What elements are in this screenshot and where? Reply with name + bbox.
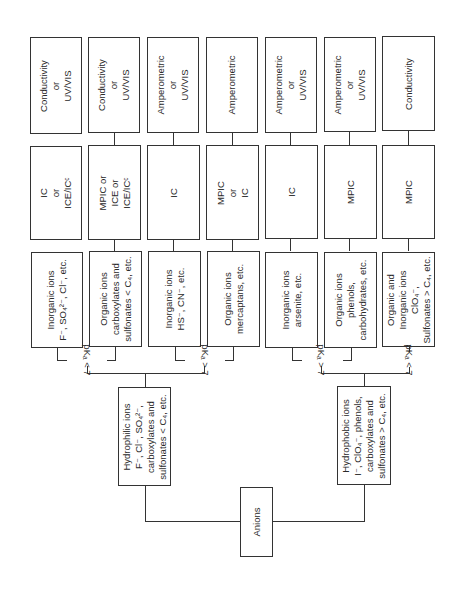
detector-text-or: or <box>50 81 61 89</box>
bracket <box>115 347 116 361</box>
ion-text-detail: carboxylates and <box>110 263 121 335</box>
bracket <box>321 373 410 374</box>
group-title: Hydrophobic ions <box>340 399 351 472</box>
ion-box-4: Organic ionsmercaptans, etc. <box>207 251 260 347</box>
detector-text: Conductivity <box>403 58 414 110</box>
ion-text-detail: F⁻, SO₄²⁻, Cl⁻, etc. <box>57 259 68 341</box>
connector <box>145 521 241 522</box>
method-text: MPIC <box>345 180 356 204</box>
ion-text-detail: phenols, <box>345 282 356 318</box>
ion-text-detail-2: sulfonates < C₄, etc. <box>122 256 133 341</box>
ion-text-detail-2: ClO₄⁻, <box>409 286 420 314</box>
detector-text-or: or <box>344 80 355 88</box>
group-line: carboxylates and <box>145 401 156 473</box>
ion-box-2: Organic ionscarboxylates andsulfonates <… <box>89 251 142 347</box>
method-text: MPIC or <box>97 175 108 210</box>
connector <box>173 133 174 145</box>
connector <box>114 240 115 251</box>
ion-text-detail-3: Sulfonates > C₄, etc. <box>421 256 432 343</box>
method-text-or: or <box>227 188 238 196</box>
detector-text: Amperometric <box>226 55 237 114</box>
ion-text: Inorganic ions <box>163 269 174 328</box>
bracket <box>351 347 352 361</box>
connector <box>408 239 409 251</box>
detector-text-or: or <box>108 81 119 89</box>
method-text-or: or <box>50 189 61 197</box>
ion-text-detail: mercaptans, etc. <box>234 264 245 334</box>
anions-root-box: Anions <box>240 487 273 557</box>
bracket <box>292 360 302 361</box>
connector <box>364 373 365 387</box>
method-box-2: MPIC orICE orICE/ICᶜ <box>88 145 141 240</box>
method-text-or: ICE or <box>109 179 120 206</box>
ion-box-7: Organic andInorganic ionsClO₄⁻,Sulfonate… <box>382 252 435 347</box>
connector <box>232 240 233 251</box>
connector <box>145 486 146 522</box>
method-text: IC <box>38 188 49 198</box>
ion-text: Organic ions <box>333 273 344 326</box>
detector-box-1: ConductivityorUV/VIS <box>30 37 82 134</box>
ion-text-detail: arsenite, etc. <box>292 273 303 327</box>
detector-text-alt: UV/VIS <box>179 69 190 100</box>
bracket <box>107 360 116 361</box>
group-title: Hydrophilic ions <box>121 403 132 470</box>
bracket <box>233 347 234 361</box>
detector-text: Conductivity <box>96 59 107 111</box>
connector <box>349 239 350 251</box>
ion-box-1: Inorganic ionsF⁻, SO₄²⁻, Cl⁻, etc. <box>31 252 83 348</box>
detector-box-4: Amperometric <box>206 37 258 133</box>
hydrophilic-box: Hydrophilic ionsF⁻, Cl⁻, SO₄²⁻,carboxyla… <box>118 387 171 486</box>
ion-text: Organic ions <box>98 272 109 325</box>
detector-text-alt: UV/VIS <box>356 69 367 100</box>
method-box-3: IC <box>147 145 200 240</box>
detector-text-or: or <box>285 81 296 89</box>
ion-text: Organic ions <box>222 272 233 325</box>
connector <box>290 239 291 251</box>
method-box-5: IC <box>265 145 318 239</box>
detector-box-5: AmperometricorUV/VIS <box>265 37 317 133</box>
bracket <box>175 360 185 361</box>
connector <box>145 373 146 387</box>
group-line: F⁻, Cl⁻, SO₄²⁻, <box>133 405 144 469</box>
anions-label: Anions <box>251 507 263 536</box>
connector <box>272 521 365 522</box>
ion-box-3: Inorganic ionsHS⁻, CN⁻, etc. <box>148 251 201 347</box>
detector-text: Amperometric <box>155 55 166 114</box>
ion-text-detail: HS⁻, CN⁻, etc. <box>175 268 186 331</box>
detector-box-2: ConductivityorUV/VIS <box>88 37 140 133</box>
detector-text-alt: UV/VIS <box>297 69 308 100</box>
connector <box>114 133 115 145</box>
ion-text-detail-2: carbohydrates, etc. <box>357 260 368 341</box>
bracket <box>175 347 176 361</box>
ion-text: Inorganic ions <box>280 270 291 329</box>
detector-box-6: AmperometricorUV/VIS <box>324 37 376 132</box>
method-text: MPIC <box>215 181 226 205</box>
group-line: sulfonates > C₄, etc. <box>376 393 387 478</box>
connector <box>173 240 174 251</box>
bracket <box>57 360 67 361</box>
method-box-6: MPIC <box>324 145 377 239</box>
bracket <box>57 347 58 361</box>
ion-box-6: Organic ionsphenols,carbohydrates, etc. <box>324 252 377 348</box>
ion-text-detail: Inorganic ions <box>397 270 408 329</box>
method-text: IC <box>286 187 297 197</box>
group-line: sulfonates < C₄, etc. <box>157 394 168 479</box>
method-box-1: ICorICE/ICᶜ <box>30 146 82 240</box>
detector-text: Amperometric <box>332 55 343 114</box>
method-box-7: MPIC <box>382 145 435 239</box>
method-text-alt: ICE/ICᶜ <box>62 177 73 208</box>
detector-text-alt: UV/VIS <box>120 69 131 100</box>
connector <box>290 133 291 145</box>
detector-box-7: Conductivity <box>382 36 435 131</box>
connector <box>232 133 233 145</box>
method-text-alt: ICE/ICᶜ <box>121 177 132 208</box>
detector-text: Amperometric <box>273 55 284 114</box>
method-box-4: MPICorIC <box>206 145 259 240</box>
connector <box>349 132 350 145</box>
detector-text-or: or <box>167 81 178 89</box>
ion-text: Organic and <box>385 274 396 326</box>
ion-box-5: Inorganic ionsarsenite, etc. <box>265 252 318 348</box>
ion-text: Inorganic ions <box>45 270 56 329</box>
bracket <box>292 347 293 361</box>
group-line: carboxylates and <box>364 400 375 472</box>
